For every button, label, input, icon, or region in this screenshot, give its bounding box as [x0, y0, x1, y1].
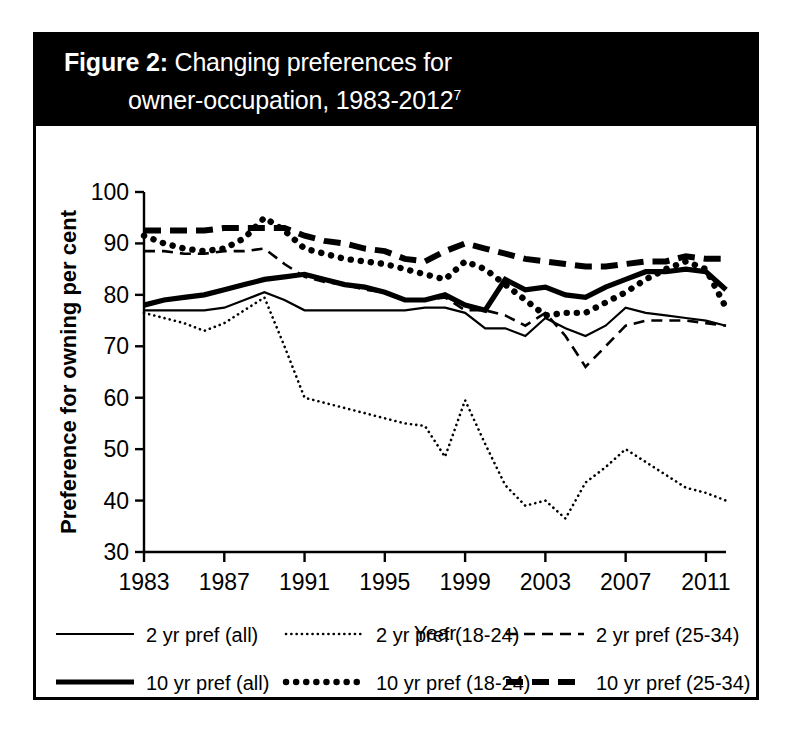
axes-group: 3040506070809010019831987199119951999200… — [56, 179, 731, 644]
y-tick-label: 60 — [103, 385, 129, 411]
y-tick-label: 100 — [91, 179, 129, 205]
y-tick-label: 30 — [103, 539, 129, 565]
y-tick-label: 50 — [103, 436, 129, 462]
figure-title-line-2: owner-occupation, 1983-20127 — [36, 79, 756, 117]
x-tick-label: 1991 — [279, 569, 330, 595]
figure-footnote-marker: 7 — [453, 87, 461, 103]
legend-label: 10 yr pref (25-34) — [596, 672, 751, 694]
legend-label: 2 yr pref (25-34) — [596, 624, 739, 646]
figure-label: Figure 2: — [64, 48, 168, 76]
legend-label: 10 yr pref (all) — [146, 672, 269, 694]
series-group — [144, 218, 726, 519]
figure-title-bar: Figure 2: Changing preferences for owner… — [36, 35, 756, 126]
figure-title-text-1: Changing preferences for — [175, 48, 452, 76]
x-tick-label: 1995 — [359, 569, 410, 595]
figure-page: Figure 2: Changing preferences for owner… — [0, 0, 801, 756]
y-axis-title: Preference for owning per cent — [56, 209, 81, 534]
x-tick-label: 1987 — [199, 569, 250, 595]
x-tick-label: 2003 — [520, 569, 571, 595]
figure-frame: Figure 2: Changing preferences for owner… — [33, 32, 759, 700]
chart-legend: 2 yr pref (all)2 yr pref (18-24)2 yr pre… — [56, 624, 751, 694]
y-tick-label: 70 — [103, 333, 129, 359]
x-tick-label: 2007 — [600, 569, 651, 595]
x-tick-label: 2011 — [681, 569, 730, 595]
figure-title-text-2: owner-occupation, 1983-2012 — [128, 86, 453, 114]
series-line — [144, 218, 726, 316]
plot-area: 3040506070809010019831987199119951999200… — [36, 126, 756, 697]
y-tick-label: 80 — [103, 282, 129, 308]
y-tick-label: 90 — [103, 230, 129, 256]
line-chart: 3040506070809010019831987199119951999200… — [36, 126, 756, 697]
figure-title-line-1: Figure 2: Changing preferences for — [36, 46, 756, 79]
x-tick-label: 1999 — [440, 569, 491, 595]
series-line — [144, 297, 726, 518]
legend-label: 2 yr pref (18-24) — [376, 624, 519, 646]
y-tick-label: 40 — [103, 488, 129, 514]
legend-label: 2 yr pref (all) — [146, 624, 258, 646]
x-tick-label: 1983 — [118, 569, 169, 595]
